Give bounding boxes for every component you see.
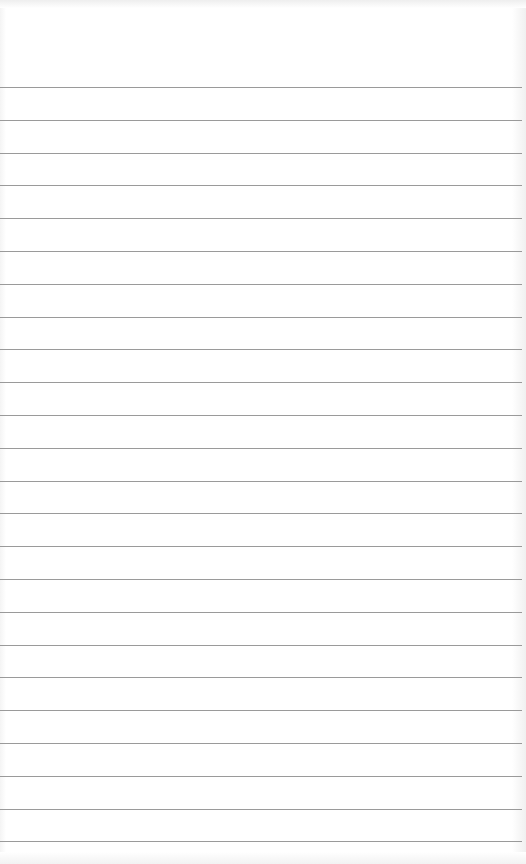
ruled-line bbox=[0, 579, 522, 580]
ruled-line bbox=[0, 612, 522, 613]
ruled-line bbox=[0, 120, 522, 121]
ruled-line bbox=[0, 153, 522, 154]
ruled-line bbox=[0, 743, 522, 744]
ruled-line bbox=[0, 776, 522, 777]
ruled-line bbox=[0, 677, 522, 678]
ruled-line bbox=[0, 218, 522, 219]
ruled-line bbox=[0, 87, 522, 88]
ruled-line bbox=[0, 415, 522, 416]
ruled-line bbox=[0, 481, 522, 482]
ruled-line bbox=[0, 349, 522, 350]
ruled-line bbox=[0, 448, 522, 449]
ruled-line bbox=[0, 546, 522, 547]
page-bottom-edge bbox=[0, 852, 526, 864]
ruled-line bbox=[0, 317, 522, 318]
ruled-line bbox=[0, 284, 522, 285]
ruled-line bbox=[0, 809, 522, 810]
ruled-line bbox=[0, 710, 522, 711]
ruled-line bbox=[0, 382, 522, 383]
ruled-line bbox=[0, 251, 522, 252]
ruled-line bbox=[0, 185, 522, 186]
ruled-line bbox=[0, 645, 522, 646]
ruled-line bbox=[0, 841, 522, 842]
notepad-page bbox=[0, 0, 526, 864]
page-top-edge bbox=[0, 0, 526, 8]
ruled-line bbox=[0, 513, 522, 514]
